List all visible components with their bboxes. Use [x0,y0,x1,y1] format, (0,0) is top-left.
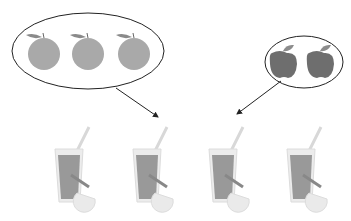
apple-icon [270,45,297,78]
apple-icon [307,45,334,78]
fruit-to-juice-diagram [0,0,351,221]
orange-icon [26,33,60,70]
orange-icon [116,33,150,70]
orange-group [12,13,164,89]
juice-glass-icon [287,127,327,212]
orange-icon [70,33,104,70]
apple-group [265,36,343,88]
juice-glass-icon [209,127,249,212]
arrow-apples-to-juice [237,81,281,114]
arrow-oranges-to-juice [116,88,158,117]
juice-glass-icon [55,127,95,212]
juice-glass-icon [133,127,173,212]
